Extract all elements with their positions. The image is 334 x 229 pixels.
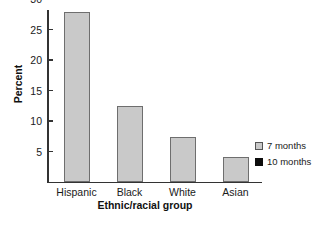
- y-axis-line: [47, 10, 49, 183]
- bar-hispanic: [64, 12, 90, 182]
- legend-swatch-icon: [255, 158, 263, 166]
- y-tick-label: 25: [20, 25, 42, 36]
- y-tick-label: 10: [20, 116, 42, 127]
- bar-white: [170, 137, 196, 182]
- bar-black: [117, 106, 143, 182]
- y-tick-mark: [48, 29, 53, 30]
- legend-label: 7 months: [267, 141, 306, 151]
- y-tick-mark: [48, 59, 53, 60]
- y-tick-label: 5: [20, 147, 42, 158]
- x-tick-label-asian: Asian: [199, 186, 272, 198]
- y-tick-mark: [48, 151, 53, 152]
- x-axis-title: Ethnic/racial group: [0, 199, 290, 211]
- bar-chart: 51015202530 HispanicBlackWhiteAsian Perc…: [0, 0, 334, 229]
- chart-legend: 7 months10 months: [255, 139, 311, 171]
- legend-item-1: 7 months: [255, 139, 311, 153]
- legend-swatch-icon: [255, 142, 263, 150]
- bar-asian: [223, 157, 249, 182]
- y-tick-label: 30: [20, 0, 42, 5]
- y-tick-mark: [48, 90, 53, 91]
- y-tick-mark: [48, 120, 53, 121]
- legend-item-2: 10 months: [255, 155, 311, 169]
- legend-label: 10 months: [267, 157, 311, 167]
- y-axis-title: Percent: [12, 54, 24, 114]
